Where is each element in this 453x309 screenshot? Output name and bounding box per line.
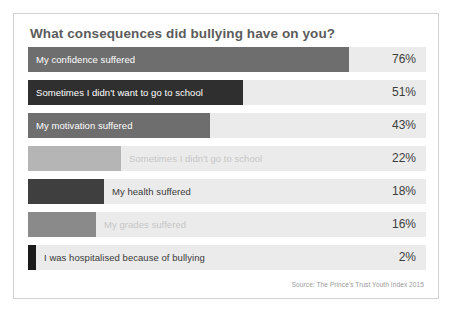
bar-label: My confidence suffered [36, 47, 135, 72]
bar-value: 16% [392, 212, 416, 237]
bar-fill [28, 245, 36, 270]
bar-row: My confidence suffered76% [28, 47, 426, 72]
bar-label: Sometimes I didn't want to go to school [36, 80, 203, 105]
bar-value: 22% [392, 146, 416, 171]
bar-fill [28, 179, 104, 204]
bar-fill [28, 146, 121, 171]
bar-value: 76% [392, 47, 416, 72]
bar-fill [28, 212, 96, 237]
bar-row: I was hospitalised because of bullying2% [28, 245, 426, 270]
bar-label: My grades suffered [104, 212, 186, 237]
source-attribution: Source: The Prince's Trust Youth Index 2… [292, 281, 424, 288]
bar-row: My health suffered18% [28, 179, 426, 204]
bar-value: 2% [399, 245, 416, 270]
bar-row: Sometimes I didn't want to go to school5… [28, 80, 426, 105]
bar-label: My motivation suffered [36, 113, 133, 138]
bar-row: Sometimes I didn't go to school22% [28, 146, 426, 171]
bar-value: 18% [392, 179, 416, 204]
bar-label: My health suffered [112, 179, 191, 204]
bar-chart: My confidence suffered76%Sometimes I did… [28, 47, 426, 278]
bar-label: Sometimes I didn't go to school [129, 146, 262, 171]
bar-row: My grades suffered16% [28, 212, 426, 237]
chart-title: What consequences did bullying have on y… [30, 26, 335, 41]
chart-card: What consequences did bullying have on y… [13, 13, 439, 299]
bar-value: 43% [392, 113, 416, 138]
bar-value: 51% [392, 80, 416, 105]
bar-row: My motivation suffered43% [28, 113, 426, 138]
bar-label: I was hospitalised because of bullying [44, 245, 205, 270]
